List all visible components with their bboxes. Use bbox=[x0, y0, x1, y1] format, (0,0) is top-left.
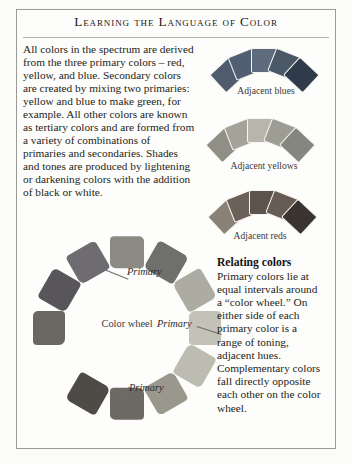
arc-swatch-stage-yellows bbox=[185, 114, 335, 162]
primary-label-3: Primary bbox=[129, 382, 164, 393]
relating-colors-block: Relating colors Primary colors lie at eq… bbox=[217, 256, 321, 415]
color-wheel-diagram: Color wheel Primary Primary Primary bbox=[29, 222, 225, 434]
intro-paragraph: All colors in the spectrum are derived f… bbox=[23, 43, 195, 199]
color-wheel-label: Color wheel bbox=[29, 318, 225, 329]
relating-colors-body: Primary colors lie at equal intervals ar… bbox=[217, 270, 321, 415]
arc-group-adjacent-blues: Adjacent blues bbox=[189, 44, 339, 106]
arc-caption-adjacent-blues: Adjacent blues bbox=[191, 85, 341, 96]
primary-label-2: Primary bbox=[157, 318, 192, 329]
page-root: Learning the Language of Color All color… bbox=[0, 0, 352, 464]
relating-colors-heading: Relating colors bbox=[217, 256, 321, 270]
color-wheel-swatch bbox=[110, 236, 144, 268]
arc-caption-adjacent-yellows: Adjacent yellows bbox=[189, 160, 339, 171]
color-wheel-swatch bbox=[172, 267, 217, 312]
page-inner: Learning the Language of Color All color… bbox=[17, 10, 335, 448]
page-title: Learning the Language of Color bbox=[17, 14, 335, 30]
primary-label-1: Primary bbox=[127, 266, 162, 277]
title-divider bbox=[23, 37, 329, 38]
arc-group-adjacent-yellows: Adjacent yellows bbox=[185, 114, 335, 176]
